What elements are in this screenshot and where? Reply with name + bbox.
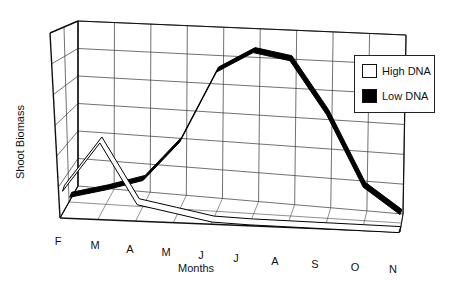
chart-canvas	[0, 0, 455, 284]
x-tick: A	[271, 255, 278, 267]
x-tick: M	[90, 239, 99, 251]
x-axis-label: Months	[178, 262, 214, 274]
x-tick: J	[198, 249, 204, 261]
x-tick: M	[161, 246, 170, 258]
x-tick: A	[126, 243, 133, 255]
chart-grid	[50, 21, 406, 232]
legend-item-high-dna: High DNA	[362, 64, 431, 78]
y-axis-label: Shoot Biomass	[14, 105, 26, 179]
x-tick: O	[351, 261, 360, 273]
legend-item-low-dna: Low DNA	[362, 89, 428, 103]
legend-swatch-white	[362, 64, 377, 78]
legend: High DNA Low DNA	[354, 55, 435, 113]
legend-label: High DNA	[382, 65, 431, 77]
x-tick: N	[389, 263, 397, 275]
x-tick: F	[55, 235, 62, 247]
x-tick: S	[311, 258, 318, 270]
legend-swatch-black	[362, 89, 377, 103]
x-tick: J	[233, 252, 239, 264]
legend-label: Low DNA	[382, 90, 428, 102]
